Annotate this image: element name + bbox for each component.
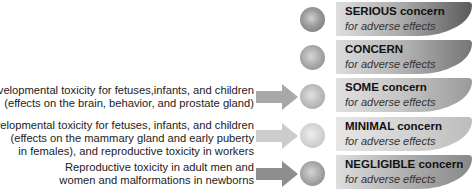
banner-minimal: MINIMAL concern for adverse effects <box>336 117 472 151</box>
circle-minimal-icon <box>300 123 325 148</box>
banner-subtitle: for adverse effects <box>345 20 436 32</box>
circle-negligible-icon <box>300 161 325 186</box>
circle-concern-icon <box>300 45 325 70</box>
banner-title: CONCERN <box>345 43 403 55</box>
description-line: Reproductive toxicity in adult men and <box>59 161 254 174</box>
level-some: Developmental toxicity for fetuses,infan… <box>0 78 472 114</box>
banner-subtitle: for adverse effects <box>345 135 436 147</box>
description-line: Developmental toxicity for fetuses,infan… <box>0 84 254 97</box>
arrow-right-icon <box>256 123 298 149</box>
circle-serious-icon <box>300 7 325 32</box>
banner-title: SOME concern <box>345 81 427 93</box>
banner-subtitle: for adverse effects <box>345 58 436 70</box>
circle-some-icon <box>300 84 325 109</box>
description-line: Developmental toxicity for fetuses, infa… <box>0 119 254 132</box>
banner-title: NEGLIGIBLE concern <box>345 158 463 170</box>
level-negligible: Reproductive toxicity in adult men and w… <box>0 155 472 191</box>
description-line: (effects on the mammary gland and early … <box>0 132 254 145</box>
banner-title: MINIMAL concern <box>345 120 442 132</box>
description-negligible: Reproductive toxicity in adult men and w… <box>59 161 254 187</box>
level-concern: CONCERN for adverse effects <box>0 40 472 76</box>
banner-subtitle: for adverse effects <box>345 96 436 108</box>
level-serious: SERIOUS concern for adverse effects <box>0 2 472 38</box>
banner-subtitle: for adverse effects <box>345 173 436 185</box>
description-some: Developmental toxicity for fetuses,infan… <box>0 84 254 110</box>
banner-negligible: NEGLIGIBLE concern for adverse effects <box>336 155 472 189</box>
banner-concern: CONCERN for adverse effects <box>336 40 472 74</box>
description-minimal: Developmental toxicity for fetuses, infa… <box>0 119 254 158</box>
arrow-right-icon <box>256 161 298 187</box>
level-minimal: Developmental toxicity for fetuses, infa… <box>0 116 472 152</box>
description-line: (effects on the brain, behavior, and pro… <box>0 97 254 110</box>
banner-serious: SERIOUS concern for adverse effects <box>336 2 472 36</box>
description-line: women and malformations in newborns <box>59 174 254 187</box>
banner-title: SERIOUS concern <box>345 5 445 17</box>
arrow-right-icon <box>256 84 298 110</box>
banner-some: SOME concern for adverse effects <box>336 78 472 112</box>
